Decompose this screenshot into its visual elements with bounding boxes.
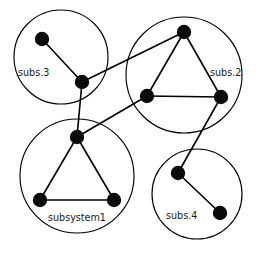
subsystem-boundary-subs3 (14, 10, 108, 104)
graph-node-n7 (33, 193, 47, 207)
diagram-canvas: subs.3subs.2subsystem1subs.4 (0, 0, 259, 257)
graph-node-n10 (213, 206, 227, 220)
graph-node-n1 (35, 32, 49, 46)
subsystem-boundaries-layer (14, 10, 242, 239)
graph-edge-n2-n6 (77, 82, 82, 137)
graph-edge-n9-n10 (178, 173, 220, 213)
subsystem-boundary-subs4 (152, 149, 242, 239)
subsystem-label-subs2: subs.2 (210, 67, 241, 78)
graph-edge-n6-n8 (77, 137, 114, 200)
graph-edge-n4-n5 (147, 96, 221, 97)
subsystem-graph: subs.3subs.2subsystem1subs.4 (0, 0, 259, 257)
subsystem-label-subs4: subs.4 (166, 210, 197, 221)
graph-node-n9 (171, 166, 185, 180)
graph-node-n2 (75, 75, 89, 89)
graph-edge-n6-n7 (40, 137, 77, 200)
graph-node-n4 (140, 89, 154, 103)
graph-node-n5 (214, 90, 228, 104)
subsystem-label-subs3: subs.3 (18, 67, 49, 78)
graph-node-n8 (107, 193, 121, 207)
graph-edges-layer (40, 32, 221, 213)
graph-node-n6 (70, 130, 84, 144)
graph-edge-n5-n9 (178, 97, 221, 173)
graph-node-n3 (177, 25, 191, 39)
subsystem-label-subsystem1: subsystem1 (48, 212, 106, 223)
graph-edge-n3-n5 (184, 32, 221, 97)
